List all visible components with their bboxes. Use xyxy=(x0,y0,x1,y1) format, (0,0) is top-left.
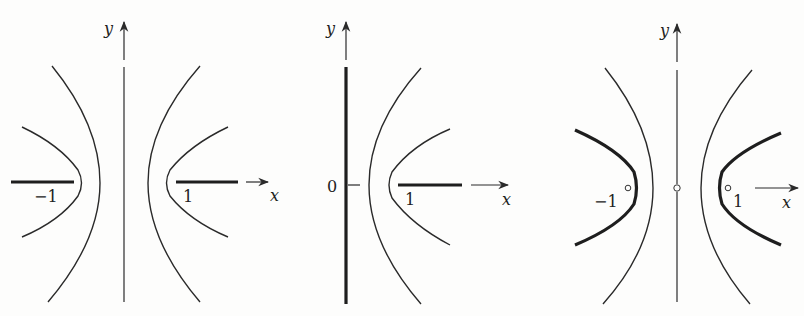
inner-hyperbola xyxy=(389,129,450,245)
panel-3: y −1 1 x xyxy=(575,21,798,304)
tick-label-one: 1 xyxy=(183,187,193,206)
y-axis-label: y xyxy=(659,21,670,40)
tick-label-neg-one: −1 xyxy=(34,187,58,206)
tick-label-one: 1 xyxy=(405,190,415,209)
tick-label-zero: 0 xyxy=(327,177,337,196)
point-one xyxy=(725,185,731,191)
tick-label-one: 1 xyxy=(733,192,743,211)
hyperbola-figure: y −1 1 x y 0 1 x y xyxy=(0,0,804,316)
point-origin xyxy=(674,185,680,191)
outer-hyperbola-left xyxy=(48,66,100,302)
x-axis-label: x xyxy=(782,193,791,212)
panel-2: y 0 1 x xyxy=(325,19,511,304)
outer-hyperbola-right xyxy=(148,66,200,302)
x-axis-label: x xyxy=(270,186,279,205)
panel-1: y −1 1 x xyxy=(11,19,279,302)
y-axis-label: y xyxy=(103,19,114,38)
y-axis-label: y xyxy=(325,19,336,38)
x-axis-label: x xyxy=(502,190,511,209)
point-neg-one xyxy=(625,185,631,191)
tick-label-neg-one: −1 xyxy=(594,192,618,211)
